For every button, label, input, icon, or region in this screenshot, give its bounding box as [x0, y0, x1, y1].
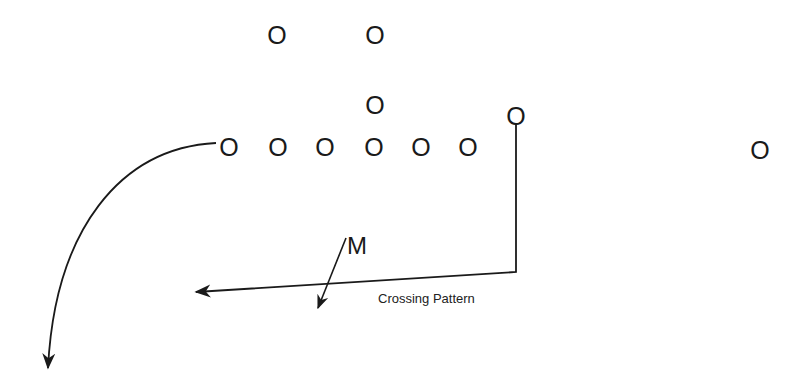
- player-wide-receiver: O: [750, 138, 769, 163]
- marker-label-m: M: [347, 234, 367, 258]
- player-line-6: O: [458, 135, 477, 160]
- player-deep-middle: O: [365, 23, 384, 48]
- player-deep-left: O: [267, 23, 286, 48]
- player-line-4: O: [364, 135, 383, 160]
- player-line-3: O: [315, 135, 334, 160]
- player-back: O: [365, 93, 384, 118]
- player-crossing-receiver: O: [506, 104, 525, 129]
- player-line-5: O: [411, 135, 430, 160]
- caption-crossing-pattern: Crossing Pattern: [378, 292, 475, 305]
- curved-route-arrow: [48, 143, 216, 368]
- m-marker-arrow: [318, 238, 346, 308]
- routes-layer: [0, 0, 804, 391]
- player-line-1: O: [219, 135, 238, 160]
- player-line-2: O: [268, 135, 287, 160]
